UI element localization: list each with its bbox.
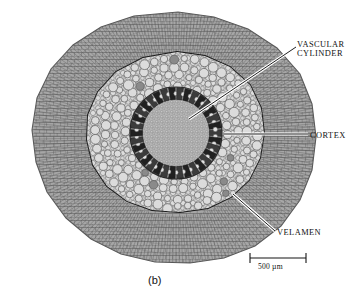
label-vascular-cylinder: VASCULAR CYLINDER: [297, 40, 345, 59]
scale-bar-label: 500 µm: [258, 262, 283, 271]
panel-label: (b): [148, 274, 161, 286]
vascular-cylinder-tissue: [130, 87, 222, 179]
label-vascular-cylinder-line1: VASCULAR: [297, 40, 345, 49]
label-cortex: CORTEX: [310, 131, 346, 141]
figure-panel: VASCULAR CYLINDER CORTEX VELAMEN 500 µm …: [0, 0, 357, 294]
label-vascular-cylinder-line2: CYLINDER: [297, 49, 345, 58]
label-velamen: VELAMEN: [277, 228, 321, 238]
